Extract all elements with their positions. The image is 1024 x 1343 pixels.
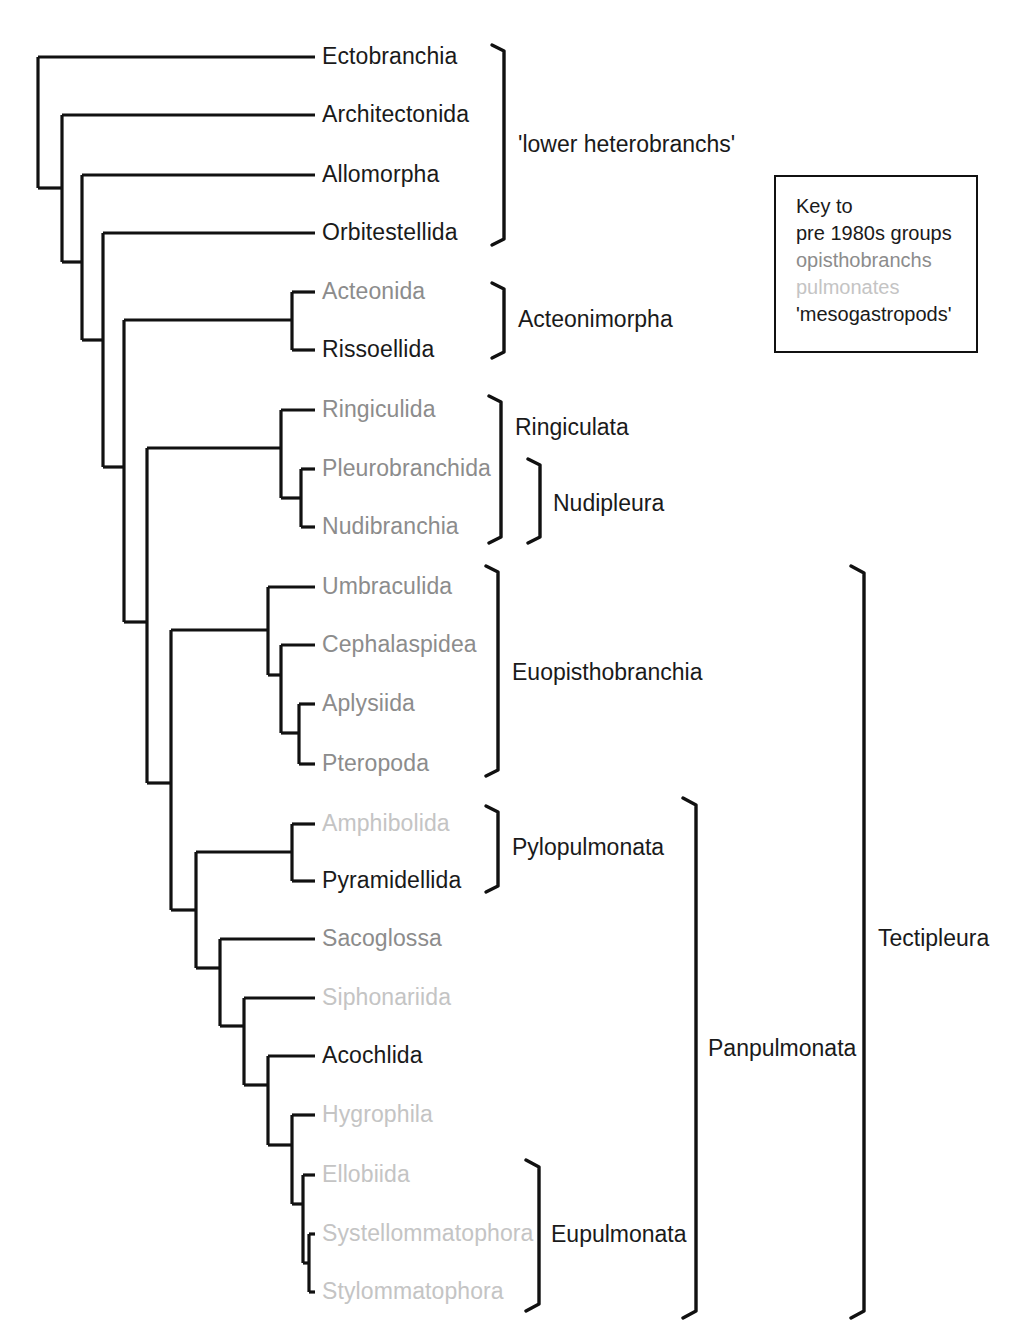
taxon-label-sacoglossa: Sacoglossa [322,927,442,950]
clade-label-eupulmonata: Eupulmonata [551,1223,687,1246]
taxon-label-cephalaspidea: Cephalaspidea [322,633,477,656]
taxon-label-allomorpha: Allomorpha [322,163,439,186]
key-box: Key to pre 1980s groups opisthobranchs p… [774,175,978,353]
key-line-pulmonates: pulmonates [796,274,976,301]
taxon-label-rissoellida: Rissoellida [322,338,434,361]
taxon-label-pteropoda: Pteropoda [322,752,429,775]
key-line-title-1: Key to [796,193,976,220]
bracket-pylopulmonata [486,806,498,892]
clade-label-euopisthobranchia: Euopisthobranchia [512,661,703,684]
bracket-acteonimorpha [492,283,504,358]
clade-label-acteonimorpha: Acteonimorpha [518,308,673,331]
taxon-label-ellobiida: Ellobiida [322,1163,410,1186]
taxon-label-amphibolida: Amphibolida [322,812,450,835]
taxon-label-umbraculida: Umbraculida [322,575,452,598]
taxon-label-aplysiida: Aplysiida [322,692,415,715]
key-line-mesogastropods: 'mesogastropods' [796,301,976,328]
taxon-label-pyramidellida: Pyramidellida [322,869,461,892]
clade-label-nudipleura: Nudipleura [553,492,664,515]
taxon-label-ringiculida: Ringiculida [322,398,436,421]
clade-label-tectipleura: Tectipleura [878,927,989,950]
taxon-label-nudibranchia: Nudibranchia [322,515,459,538]
taxon-label-siphonariida: Siphonariida [322,986,451,1009]
taxon-label-orbitestellida: Orbitestellida [322,221,458,244]
bracket-euopisthobranchia [486,566,498,776]
key-line-opisthobranchs: opisthobranchs [796,247,976,274]
clade-label-lower-heterobranchs: 'lower heterobranchs' [518,133,735,156]
cladogram-figure: Ectobranchia Architectonida Allomorpha O… [0,0,1024,1343]
bracket-tectipleura [851,566,864,1318]
bracket-lower-heterobranchs [492,45,504,245]
taxon-label-pleurobranchida: Pleurobranchida [322,457,491,480]
taxon-label-ectobranchia: Ectobranchia [322,45,457,68]
key-line-title-2: pre 1980s groups [796,220,976,247]
taxon-label-hygrophila: Hygrophila [322,1103,433,1126]
taxon-label-architectonida: Architectonida [322,103,469,126]
clade-label-pylopulmonata: Pylopulmonata [512,836,664,859]
taxon-label-acteonida: Acteonida [322,280,425,303]
bracket-nudipleura [528,459,540,543]
clade-label-panpulmonata: Panpulmonata [708,1037,856,1060]
taxon-label-acochlida: Acochlida [322,1044,423,1067]
taxon-label-stylommatophora: Stylommatophora [322,1280,504,1303]
taxon-label-systellommatophora: Systellommatophora [322,1222,533,1245]
clade-label-ringiculata: Ringiculata [515,416,629,439]
